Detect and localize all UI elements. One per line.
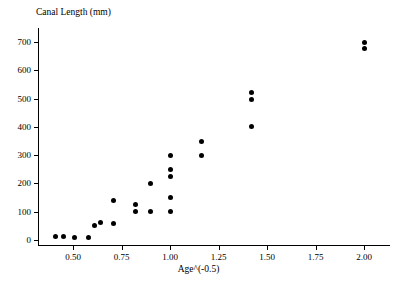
x-tick-label: 1.00 — [150, 252, 190, 262]
scatter-chart: Canal Length (mm) Age^(-0.5) 0.500.751.0… — [0, 0, 397, 292]
x-tick — [316, 246, 317, 250]
x-axis-title: Age^(-0.5) — [0, 264, 397, 275]
y-tick — [34, 70, 38, 71]
data-point — [148, 209, 153, 214]
y-tick — [34, 155, 38, 156]
x-tick-label: 0.50 — [53, 252, 93, 262]
x-tick — [122, 246, 123, 250]
data-point — [111, 198, 116, 203]
y-tick-label: 400 — [5, 122, 31, 132]
x-tick — [73, 246, 74, 250]
x-tick — [364, 246, 365, 250]
x-tick-label: 0.75 — [102, 252, 142, 262]
y-tick-label: 600 — [5, 65, 31, 75]
data-point — [249, 97, 254, 102]
x-tick — [170, 246, 171, 250]
x-tick-label: 1.75 — [296, 252, 336, 262]
y-tick-label: 500 — [5, 94, 31, 104]
data-point — [362, 40, 367, 45]
data-point — [168, 153, 173, 158]
x-tick — [219, 246, 220, 250]
data-point — [133, 202, 138, 207]
plot-area: Canal Length (mm) Age^(-0.5) 0.500.751.0… — [0, 0, 397, 292]
y-tick-label: 300 — [5, 150, 31, 160]
data-point — [168, 174, 173, 179]
data-point — [98, 220, 103, 225]
y-axis-line — [38, 28, 39, 246]
y-tick — [34, 212, 38, 213]
y-tick — [34, 42, 38, 43]
data-point — [86, 235, 91, 240]
y-tick — [34, 127, 38, 128]
data-point — [362, 46, 367, 51]
y-tick — [34, 99, 38, 100]
x-tick-label: 2.00 — [344, 252, 384, 262]
data-point — [53, 234, 58, 239]
y-tick — [34, 240, 38, 241]
y-tick-label: 200 — [5, 178, 31, 188]
data-point — [61, 234, 66, 239]
data-point — [148, 181, 153, 186]
data-point — [72, 235, 77, 240]
data-point — [133, 209, 138, 214]
y-tick — [34, 183, 38, 184]
data-point — [168, 167, 173, 172]
data-point — [199, 139, 204, 144]
y-tick-label: 700 — [5, 37, 31, 47]
data-point — [111, 221, 116, 226]
x-tick-label: 1.25 — [199, 252, 239, 262]
y-tick-label: 100 — [5, 207, 31, 217]
data-point — [249, 124, 254, 129]
data-point — [92, 223, 97, 228]
x-axis-line — [38, 245, 390, 246]
y-tick-label: 0 — [5, 235, 31, 245]
data-point — [199, 153, 204, 158]
data-point — [168, 209, 173, 214]
data-point — [249, 90, 254, 95]
y-axis-title: Canal Length (mm) — [36, 7, 111, 18]
x-tick — [267, 246, 268, 250]
x-tick-label: 1.50 — [247, 252, 287, 262]
data-point — [168, 195, 173, 200]
